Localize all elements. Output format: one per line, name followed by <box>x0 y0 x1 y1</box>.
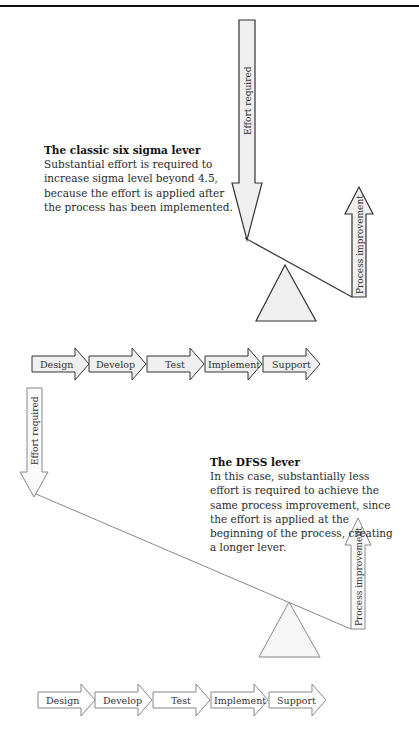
dfss-caption-body: In this case, substantially less effort … <box>210 470 393 553</box>
lever-diagram: Effort required Process improvement Desi… <box>0 0 419 747</box>
dfss-effort-label: Effort required <box>30 396 40 465</box>
dfss-fulcrum-triangle <box>259 602 320 657</box>
dfss-caption-title: The DFSS lever <box>210 455 395 469</box>
dfss-stage-support-label: Support <box>277 695 316 706</box>
classic-stage-test-label: Test <box>165 359 185 370</box>
dfss-stage-design-label: Design <box>46 695 79 706</box>
classic-stage-row: Design Develop Test Implement Support <box>32 348 320 380</box>
dfss-stage-test-label: Test <box>171 695 191 706</box>
classic-stage-implement-label: Implement <box>208 359 260 370</box>
classic-stage-design-label: Design <box>40 359 73 370</box>
dfss-stage-row: Design Develop Test Implement Support <box>38 684 326 716</box>
classic-fulcrum-triangle <box>256 265 316 321</box>
classic-stage-develop-label: Develop <box>96 359 135 370</box>
classic-effort-label: Effort required <box>243 66 253 135</box>
classic-caption: The classic six sigma lever Substantial … <box>44 143 244 214</box>
dfss-caption: The DFSS lever In this case, substantial… <box>210 455 395 554</box>
classic-caption-title: The classic six sigma lever <box>44 143 244 157</box>
classic-stage-support-label: Support <box>272 359 311 370</box>
dfss-stage-implement-label: Implement <box>214 695 266 706</box>
classic-caption-body: Substantial effort is required to increa… <box>44 158 233 213</box>
classic-improvement-label: Process improvement <box>355 195 365 294</box>
dfss-stage-develop-label: Develop <box>103 695 142 706</box>
